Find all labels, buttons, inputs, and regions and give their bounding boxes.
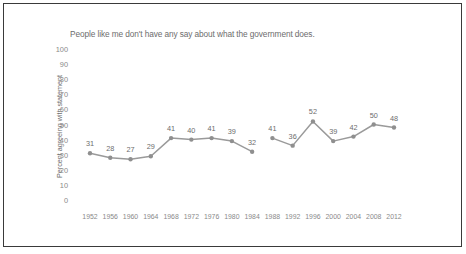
x-axis-tick-label: 2004 <box>346 213 361 220</box>
x-axis-tick-label: 2008 <box>366 213 381 220</box>
series-data-point <box>230 139 234 143</box>
data-point-label: 31 <box>86 139 94 148</box>
data-point-label: 48 <box>390 114 398 123</box>
series-data-point <box>270 136 274 140</box>
series-data-point <box>128 157 132 161</box>
y-axis-tick-label: 50 <box>44 120 68 129</box>
data-point-label: 28 <box>106 144 114 153</box>
x-axis-tick-label: 1980 <box>224 213 239 220</box>
image-frame: People like me don't have any say about … <box>3 3 462 247</box>
series-data-point <box>149 154 153 158</box>
series-data-point <box>372 122 376 126</box>
series-data-point <box>351 134 355 138</box>
x-axis-tick-label: 2000 <box>326 213 341 220</box>
x-axis-tick-label: 1972 <box>184 213 199 220</box>
line-series <box>72 49 412 200</box>
x-axis-tick-label: 1968 <box>163 213 178 220</box>
series-data-point <box>290 143 294 147</box>
series-data-point <box>169 136 173 140</box>
plot-area: 1009080706050403020100 19521956196019641… <box>72 49 412 200</box>
y-axis-tick-label: 40 <box>44 135 68 144</box>
chart-title: People like me don't have any say about … <box>70 29 410 39</box>
x-axis-tick-label: 1964 <box>143 213 158 220</box>
data-point-label: 41 <box>167 124 175 133</box>
data-point-label: 41 <box>208 124 216 133</box>
data-point-label: 32 <box>248 138 256 147</box>
y-axis-tick-label: 30 <box>44 150 68 159</box>
y-axis-tick-label: 80 <box>44 75 68 84</box>
y-axis-tick-label: 70 <box>44 90 68 99</box>
data-point-label: 42 <box>349 123 357 132</box>
x-axis-tick-label: 1956 <box>103 213 118 220</box>
screenshot-root: People like me don't have any say about … <box>0 0 466 254</box>
series-data-point <box>392 125 396 129</box>
x-axis-tick-label: 1984 <box>244 213 259 220</box>
y-axis-tick-label: 100 <box>44 45 68 54</box>
data-point-label: 40 <box>187 126 195 135</box>
series-data-point <box>331 139 335 143</box>
data-point-label: 29 <box>147 142 155 151</box>
x-axis-tick-label: 1988 <box>265 213 280 220</box>
series-data-point <box>108 156 112 160</box>
series-data-point <box>88 151 92 155</box>
x-axis-tick-label: 1996 <box>305 213 320 220</box>
data-point-label: 39 <box>329 127 337 136</box>
x-axis-tick-label: 1960 <box>123 213 138 220</box>
y-axis-tick-label: 20 <box>44 165 68 174</box>
chart-canvas: People like me don't have any say about … <box>4 4 461 246</box>
x-axis-tick-label: 1976 <box>204 213 219 220</box>
data-point-label: 52 <box>309 107 317 116</box>
data-point-label: 36 <box>289 132 297 141</box>
data-point-label: 41 <box>268 124 276 133</box>
y-axis-tick-label: 90 <box>44 60 68 69</box>
y-axis-tick-label: 60 <box>44 105 68 114</box>
y-axis-tick-label: 0 <box>44 196 68 205</box>
data-point-label: 39 <box>228 127 236 136</box>
y-axis-tick-label: 10 <box>44 180 68 189</box>
x-axis-tick-label: 1952 <box>82 213 97 220</box>
series-data-point <box>311 119 315 123</box>
series-data-point <box>209 136 213 140</box>
series-data-point <box>189 137 193 141</box>
x-axis-tick-label: 2012 <box>386 213 401 220</box>
x-axis-tick-label: 1992 <box>285 213 300 220</box>
series-data-point <box>250 149 254 153</box>
data-point-label: 50 <box>370 111 378 120</box>
data-point-label: 27 <box>126 145 134 154</box>
